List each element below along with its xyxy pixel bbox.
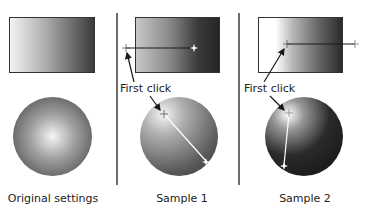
crosshair-icon (351, 40, 359, 48)
crosshair-icon (285, 109, 293, 117)
star-marker-icon (280, 162, 288, 170)
gradient-vector-rect-sample-1 (122, 44, 198, 52)
annotation-overlay (0, 0, 373, 215)
gradient-vector-rect-sample-2 (283, 40, 359, 48)
callout-arrow (127, 53, 134, 82)
crosshair-icon (122, 44, 130, 52)
crosshair-icon (283, 40, 291, 48)
callout-arrow (150, 96, 160, 110)
star-marker-icon (190, 44, 198, 52)
callout-arrow (264, 49, 284, 82)
gradient-vector-sphere-sample-1 (160, 110, 210, 166)
star-marker-icon (202, 158, 210, 166)
gradient-vector-sphere-sample-2 (280, 109, 293, 170)
callout-arrow (270, 96, 284, 110)
